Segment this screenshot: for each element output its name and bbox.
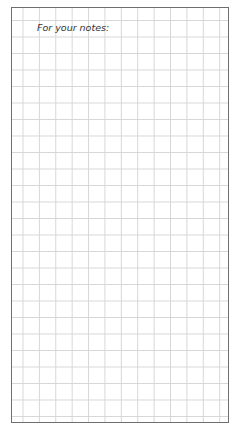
notes-label: For your notes: [37, 22, 109, 33]
notes-grid-area: For your notes: [11, 7, 229, 423]
